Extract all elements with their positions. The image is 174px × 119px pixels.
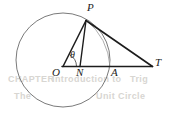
geometry-figure: CHAPTER Introduction to Trig The Unit Ci… [0,0,174,119]
angle-label-theta: θ [70,50,75,60]
vertex-label-N: N [76,67,83,78]
vertex-label-T: T [155,57,161,68]
diagram-canvas [0,0,174,119]
arc-PA-icon [86,20,110,67]
vertex-label-A: A [111,67,118,78]
vertex-label-P: P [87,2,94,13]
segment-PT [86,21,153,67]
vertex-label-O: O [52,67,60,78]
